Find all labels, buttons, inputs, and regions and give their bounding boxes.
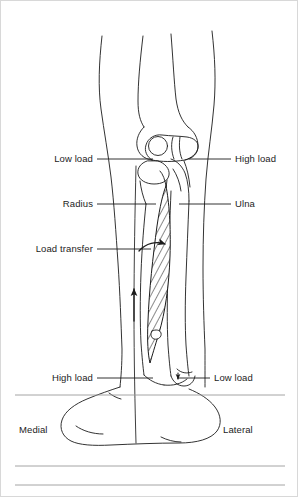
figure-page: Low load High load Radius Ulna Load tran… <box>0 0 298 497</box>
label-radius: Radius <box>23 198 93 209</box>
label-high-load-bottom: High load <box>23 372 93 383</box>
label-medial: Medial <box>19 424 48 435</box>
label-load-transfer: Load transfer <box>17 243 93 254</box>
label-high-load-top: High load <box>235 153 276 164</box>
label-ulna: Ulna <box>235 198 255 209</box>
label-lateral: Lateral <box>223 424 253 435</box>
label-low-load-top: Low load <box>23 153 93 164</box>
label-low-load-bottom: Low load <box>214 372 253 383</box>
